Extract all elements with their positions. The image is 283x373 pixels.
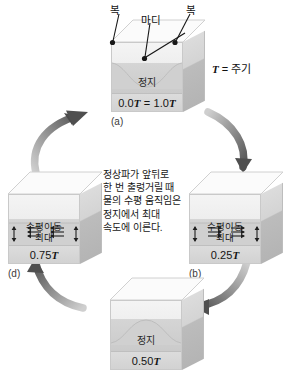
cube-c-state-label: 정지 [111,332,181,347]
cube-d-time-text: 0.75T [30,249,59,261]
cube-d-symbol: T [51,249,58,261]
cube-d-caption: (d) [8,268,20,279]
cube-b-front-face: 수평이동 최대 0.25T [189,194,261,264]
cube-d-time-band: 0.75T [9,245,79,263]
cube-c-time-value: 0.50 [132,355,154,367]
arrow-c-to-d [27,258,83,308]
cube-c-time-band: 0.50T [111,351,181,369]
cube-b-state-line2: 최대 [190,233,260,244]
cube-d-side-face [80,183,102,264]
period-symbol: T [212,63,219,75]
cube-b-time-text: 0.25T [211,249,240,261]
cube-b-symbol: T [232,249,239,261]
cube-b-state-line1: 수평이동 [190,222,260,233]
cube-d-state-line1: 수평이동 [9,222,79,233]
callout-node: 마디 [141,12,161,27]
cube-b-time-band: 0.25T [190,245,260,263]
cube-d-front-face: 수평이동 최대 0.75T [8,194,80,264]
cube-c-side-face [182,289,204,370]
cube-d-time-value: 0.75 [30,249,52,261]
callout-antinode-left: 복 [110,2,120,17]
period-equals: = 주기 [222,63,251,75]
center-explanation: 정상파가 앞뒤로 한 번 출렁거릴 때 물의 수평 움직임은 정지에서 최대 속… [103,168,193,234]
cube-c-symbol: T [153,355,160,367]
cube-b-side-face [261,183,283,264]
callout-antinode-right: 복 [186,2,196,17]
arrow-a-to-b [208,112,252,173]
period-note: T = 주기 [212,60,251,76]
diagram-canvas: 정지 0.0T = 1.0T (a) 복 마디 복 T = 주기 [0,0,283,373]
cube-c-front-face: 정지 0.50T [110,300,182,370]
cube-d-state-label: 수평이동 최대 [9,222,79,243]
cube-b-state-label: 수평이동 최대 [190,222,260,243]
cube-d-state-line2: 최대 [9,233,79,244]
cube-b-time-value: 0.25 [211,249,233,261]
cube-c-time-text: 0.50T [132,355,161,367]
